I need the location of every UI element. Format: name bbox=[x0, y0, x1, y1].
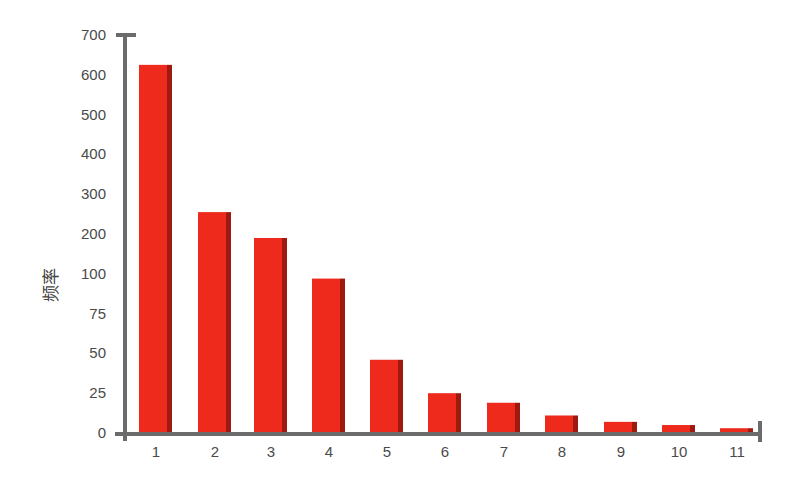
y-tick-label: 300 bbox=[81, 185, 106, 202]
x-tick-label: 5 bbox=[383, 443, 391, 460]
x-tick-label: 11 bbox=[729, 443, 745, 460]
bar bbox=[487, 403, 515, 433]
bar bbox=[254, 238, 282, 433]
x-tick-label: 8 bbox=[558, 443, 566, 460]
bar bbox=[139, 65, 167, 433]
bar-side bbox=[515, 403, 520, 433]
bar bbox=[545, 415, 573, 433]
y-axis-label: 频率 bbox=[41, 268, 61, 302]
bar bbox=[198, 212, 226, 433]
x-tick-label: 1 bbox=[152, 443, 160, 460]
bar-side bbox=[282, 238, 287, 433]
x-tick-label: 9 bbox=[617, 443, 625, 460]
bar-side bbox=[340, 279, 345, 433]
y-tick-label: 500 bbox=[81, 106, 106, 123]
bar-side bbox=[632, 422, 637, 433]
y-tick-label: 100 bbox=[81, 265, 106, 282]
bar bbox=[604, 422, 632, 433]
bar bbox=[370, 360, 398, 433]
bar-side bbox=[226, 212, 231, 433]
y-tick-label: 400 bbox=[81, 145, 106, 162]
y-tick-label: 25 bbox=[89, 384, 106, 401]
bar-side bbox=[456, 393, 461, 433]
bar bbox=[428, 393, 456, 433]
bar bbox=[312, 279, 340, 433]
y-tick-label: 0 bbox=[98, 424, 106, 441]
x-tick-label: 10 bbox=[671, 443, 688, 460]
y-tick-label: 50 bbox=[89, 344, 106, 361]
bar-side bbox=[690, 425, 695, 433]
x-tick-label: 7 bbox=[500, 443, 508, 460]
x-tick-label: 4 bbox=[325, 443, 333, 460]
bar-side bbox=[573, 415, 578, 433]
bar-chart: 0255075100200300400500600700频率1234567891… bbox=[0, 0, 812, 493]
y-tick-label: 600 bbox=[81, 66, 106, 83]
x-tick-label: 2 bbox=[211, 443, 219, 460]
y-tick-label: 200 bbox=[81, 225, 106, 242]
x-tick-label: 3 bbox=[267, 443, 275, 460]
y-tick-label: 75 bbox=[89, 305, 106, 322]
x-tick-label: 6 bbox=[441, 443, 449, 460]
bar bbox=[662, 425, 690, 433]
bar-side bbox=[167, 65, 172, 433]
y-tick-label: 700 bbox=[81, 26, 106, 43]
bar-side bbox=[398, 360, 403, 433]
